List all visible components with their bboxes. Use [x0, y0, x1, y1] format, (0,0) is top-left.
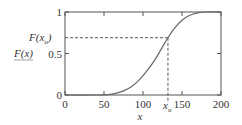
y-axis-label: F(x) — [13, 47, 33, 60]
y-tick-label: 1 — [57, 6, 63, 18]
cdf-curve — [65, 12, 221, 95]
y-tick-label: 0.5 — [48, 48, 62, 60]
fxu-label: F(xu) — [28, 31, 52, 46]
xu-label: xu — [162, 99, 172, 114]
x-tick-label: 100 — [135, 98, 152, 110]
x-tick-label: 50 — [99, 98, 111, 110]
x-tick-label: 0 — [62, 98, 68, 110]
plot-frame — [65, 12, 221, 95]
x-tick-label: 150 — [174, 98, 191, 110]
x-tick-label: 200 — [213, 98, 230, 110]
y-tick-label: 0 — [57, 89, 63, 101]
y-tick-labels: 00.51 — [48, 6, 62, 101]
tick-marks — [65, 12, 221, 95]
x-axis-label: x — [137, 110, 143, 122]
cdf-chart: 050100150200 00.51 F(xu) F(x) x xu — [0, 0, 242, 125]
x-tick-labels: 050100150200 — [62, 98, 230, 110]
